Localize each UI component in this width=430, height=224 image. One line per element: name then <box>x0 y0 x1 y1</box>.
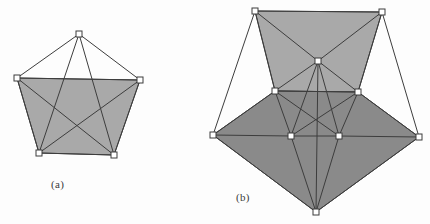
vertex-b-top-left <box>252 8 258 14</box>
vertex-b-low-left <box>288 133 294 139</box>
vertex-b-center <box>315 58 321 64</box>
vertex-b-bottom <box>313 209 319 215</box>
subfigure-b-caption: (b) <box>236 191 250 203</box>
vertex-b-outer-left <box>210 132 216 138</box>
vertex-b-low-right <box>336 133 342 139</box>
vertex-b-top-right <box>379 9 385 15</box>
vertex-b-mid-right <box>355 89 361 95</box>
subfigure-b-diagram <box>0 0 430 224</box>
vertex-b-mid-left <box>272 88 278 94</box>
figure-panel: (a) (b) <box>0 0 430 224</box>
vertex-b-outer-right <box>416 134 422 140</box>
subfigure-a-caption: (a) <box>51 178 64 190</box>
upper-face-b <box>255 11 382 92</box>
